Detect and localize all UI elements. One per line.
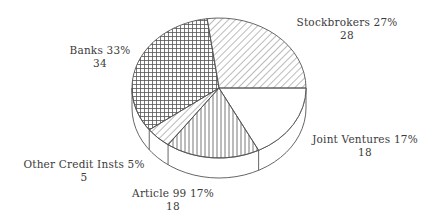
label-article-99-title: Article 99 17% <box>118 187 228 200</box>
label-stockbrokers-value: 28 <box>282 29 412 42</box>
label-joint-ventures: Joint Ventures 17% 18 <box>300 133 430 159</box>
pie-top-face <box>132 18 306 158</box>
label-stockbrokers: Stockbrokers 27% 28 <box>282 16 412 42</box>
label-banks-value: 34 <box>60 57 140 70</box>
label-stockbrokers-title: Stockbrokers 27% <box>282 16 412 29</box>
label-other-credit-insts: Other Credit Insts 5% 5 <box>14 158 154 184</box>
label-banks-title: Banks 33% <box>60 44 140 57</box>
label-article-99: Article 99 17% 18 <box>118 187 228 213</box>
label-joint-ventures-value: 18 <box>300 146 430 159</box>
label-joint-ventures-title: Joint Ventures 17% <box>300 133 430 146</box>
label-other-credit-insts-title: Other Credit Insts 5% <box>14 158 154 171</box>
label-article-99-value: 18 <box>118 200 228 213</box>
label-other-credit-insts-value: 5 <box>14 171 154 184</box>
label-banks: Banks 33% 34 <box>60 44 140 70</box>
